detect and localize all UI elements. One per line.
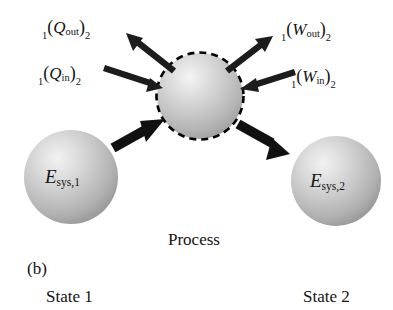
label-w-out-inner: out xyxy=(306,28,319,39)
label-q-in-symbol: Q xyxy=(49,64,61,83)
label-e2-subscript: sys,2 xyxy=(322,180,345,192)
caption-state-1: State 1 xyxy=(46,288,93,305)
label-w-in-pre: 1 xyxy=(291,79,296,90)
arrow-system-to-state2 xyxy=(238,124,290,160)
label-q-in-pre: 1 xyxy=(38,76,43,87)
label-sphere-state-2: Esys,2 xyxy=(310,171,345,190)
diagram-canvas xyxy=(0,0,393,310)
label-w-out-pre: 1 xyxy=(281,32,286,43)
label-q-in-post: 2 xyxy=(76,76,81,87)
label-w-in-symbol: W xyxy=(302,67,316,86)
arrow-state1-to-system xyxy=(113,119,165,148)
label-w-in-post: 2 xyxy=(331,79,336,90)
label-w-out-symbol: W xyxy=(292,20,306,39)
caption-process: Process xyxy=(168,231,220,248)
energy-balance-diagram: 1(Qout)2 1(Qin)2 1(Wout)2 1(Win)2 Esys,1… xyxy=(0,0,393,310)
label-q-out-inner: out xyxy=(66,26,79,37)
label-w-in-inner: in xyxy=(316,75,324,86)
label-q-out-pre: 1 xyxy=(42,30,47,41)
label-q-in-inner: in xyxy=(62,72,70,83)
label-w-out-post: 2 xyxy=(326,32,331,43)
label-q-in: 1(Qin)2 xyxy=(38,64,81,86)
arrow-w-out xyxy=(227,36,273,71)
caption-state-2: State 2 xyxy=(303,288,350,305)
label-sphere-state-1: Esys,1 xyxy=(45,167,80,186)
label-w-out: 1(Wout)2 xyxy=(281,20,331,42)
arrow-q-in xyxy=(104,68,163,92)
arrow-q-out xyxy=(126,33,174,71)
label-q-out-post: 2 xyxy=(85,30,90,41)
panel-label: (b) xyxy=(27,260,47,277)
label-q-out: 1(Qout)2 xyxy=(42,18,90,40)
label-w-in: 1(Win)2 xyxy=(291,67,336,89)
arrow-w-in xyxy=(240,72,295,92)
label-e1-subscript: sys,1 xyxy=(57,176,80,188)
label-e2-symbol: E xyxy=(310,170,322,191)
label-q-out-symbol: Q xyxy=(53,18,65,37)
label-e1-symbol: E xyxy=(45,166,57,187)
